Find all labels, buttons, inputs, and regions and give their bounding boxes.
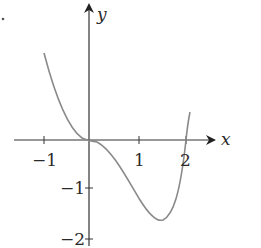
x-tick-label-1: 1 (134, 150, 145, 170)
graph: y x −1 1 2 −1 −2 (0, 0, 261, 248)
x-tick-label-2: 2 (180, 150, 191, 170)
stray-mark (2, 18, 5, 21)
x-axis-label: x (221, 129, 231, 149)
y-axis-label: y (96, 4, 107, 24)
y-tick-label-minus1: −1 (60, 178, 85, 198)
y-tick-label-minus2: −2 (60, 229, 85, 248)
x-tick-label-minus1: −1 (32, 150, 57, 170)
